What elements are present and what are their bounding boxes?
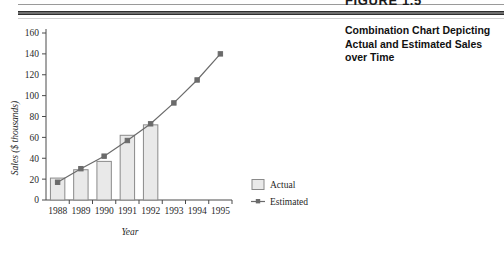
line-marker <box>172 101 176 105</box>
header-rule-thin-top <box>18 4 504 5</box>
line-marker <box>195 78 199 82</box>
chart-legend: ActualEstimated <box>251 180 308 208</box>
line-marker <box>125 138 129 142</box>
y-tick-label: 20 <box>30 175 40 185</box>
chart-svg: Sales ($ thousands) Year 020406080100120… <box>0 20 330 258</box>
bar <box>97 161 111 200</box>
line-marker <box>148 122 152 126</box>
y-axis-title: Sales ($ thousands) <box>10 101 21 175</box>
y-tick-label: 80 <box>30 112 40 122</box>
figure-number: FIGURE 1.5 <box>345 0 422 8</box>
y-tick-label: 40 <box>30 154 40 164</box>
x-tick-label: 1990 <box>95 206 114 216</box>
legend-label: Actual <box>270 180 296 190</box>
y-axis: 020406080100120140160 <box>25 28 46 205</box>
line-marker <box>55 180 59 184</box>
x-axis: 19881989199019911992199319941995 <box>46 200 232 216</box>
combination-chart: Sales ($ thousands) Year 020406080100120… <box>0 20 330 258</box>
x-tick-label: 1995 <box>211 206 230 216</box>
y-tick-label: 120 <box>25 70 40 80</box>
line-series-estimated <box>55 52 222 185</box>
header-rule-thin-bottom <box>18 18 504 19</box>
x-axis-title: Year <box>121 227 138 237</box>
y-tick-label: 100 <box>25 91 40 101</box>
y-tick-label: 60 <box>30 133 40 143</box>
bar-series-actual <box>50 125 157 200</box>
y-tick-label: 0 <box>34 195 39 205</box>
line-marker <box>79 166 83 170</box>
y-tick-label: 140 <box>25 49 40 59</box>
line-marker <box>102 154 106 158</box>
x-tick-label: 1989 <box>71 206 90 216</box>
figure-caption: Combination Chart Depicting Actual and E… <box>345 24 497 65</box>
bar <box>143 125 157 200</box>
estimated-line <box>58 54 221 182</box>
x-tick-label: 1988 <box>48 206 67 216</box>
legend-label: Estimated <box>270 197 308 207</box>
x-tick-label: 1994 <box>188 206 207 216</box>
x-tick-label: 1991 <box>118 206 137 216</box>
legend-swatch-estimated-marker <box>256 199 260 203</box>
bar <box>74 170 88 200</box>
header-rule-thick <box>18 11 504 15</box>
y-tick-label: 160 <box>25 28 40 38</box>
x-tick-label: 1993 <box>164 206 183 216</box>
legend-swatch-actual <box>252 180 264 190</box>
x-tick-label: 1992 <box>141 206 160 216</box>
bar <box>120 135 134 200</box>
line-marker <box>218 52 222 56</box>
